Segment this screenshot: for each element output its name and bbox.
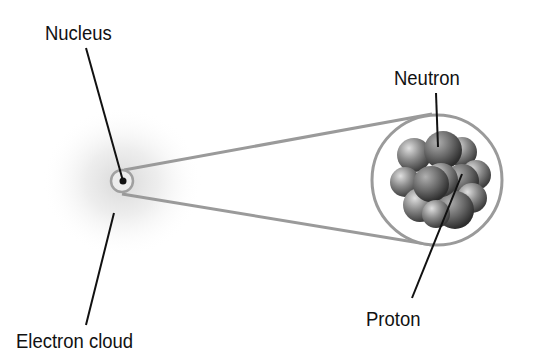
- diagram-graphic: [0, 0, 534, 364]
- atom-diagram: Nucleus Electron cloud Neutron Proton: [0, 0, 534, 364]
- neutron-label: Neutron: [394, 67, 460, 88]
- proton-label: Proton: [366, 308, 420, 329]
- electron-cloud-label: Electron cloud: [16, 330, 133, 351]
- nucleus-label: Nucleus: [45, 22, 112, 43]
